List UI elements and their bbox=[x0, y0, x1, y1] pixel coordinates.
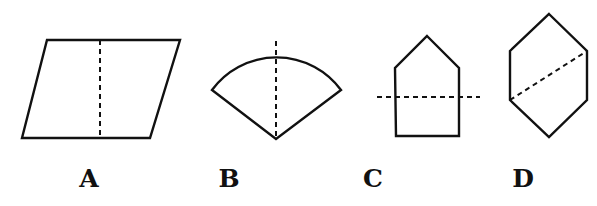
option-b-label: B bbox=[209, 164, 249, 194]
option-a-label: A bbox=[69, 164, 109, 194]
option-a-figure bbox=[22, 40, 180, 138]
option-d-label: D bbox=[503, 164, 543, 194]
option-c-figure bbox=[377, 36, 480, 136]
option-d-figure bbox=[510, 14, 587, 137]
option-c-label: C bbox=[353, 164, 393, 194]
option-b-figure bbox=[212, 41, 341, 139]
pentagon-shape bbox=[395, 36, 459, 136]
fold-line-diagonal bbox=[510, 51, 587, 100]
